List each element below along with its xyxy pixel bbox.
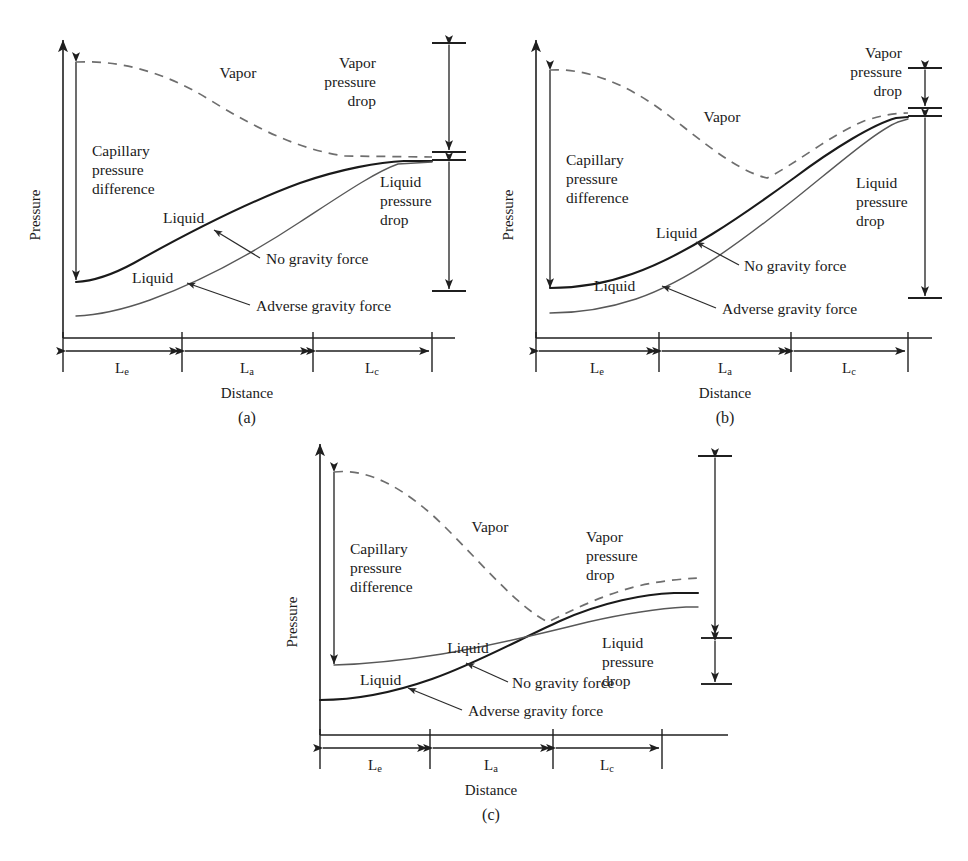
liquid-drop-label-line3-a: drop bbox=[380, 211, 409, 228]
liquid-label-upper-a: Liquid bbox=[163, 209, 205, 226]
vapor-drop-label-line1-c: Vapor bbox=[586, 528, 624, 545]
x-axis-label-b: Distance bbox=[699, 385, 752, 401]
liquid-label-upper-c: Liquid bbox=[447, 639, 489, 656]
segment-label-lc-c: Lc bbox=[600, 757, 614, 774]
vapor-curve-label-b: Vapor bbox=[703, 108, 741, 125]
vapor-drop-label-line1-b: Vapor bbox=[865, 44, 903, 61]
y-axis-label-c: Pressure bbox=[284, 596, 300, 647]
segment-label-la-c: La bbox=[484, 757, 498, 774]
vapor-curve-label-a: Vapor bbox=[219, 64, 257, 81]
liquid-drop-label-line2-a: pressure bbox=[380, 192, 432, 209]
capillary-label-line1-a: Capillary bbox=[92, 142, 150, 159]
segment-label-le-a: Le bbox=[115, 360, 129, 377]
segment-label-lc-a: Lc bbox=[365, 360, 379, 377]
no-gravity-annotation-b: No gravity force bbox=[744, 257, 847, 274]
vapor-drop-label-line2-a: pressure bbox=[324, 73, 376, 90]
adverse-gravity-leader-a bbox=[187, 283, 250, 305]
panel-caption-b: (b) bbox=[716, 409, 735, 427]
capillary-label-line2-a: pressure bbox=[92, 161, 144, 178]
no-gravity-leader-c bbox=[466, 663, 508, 682]
liquid-drop-label-line1-b: Liquid bbox=[856, 174, 898, 191]
liquid-label-lower-b: Liquid bbox=[594, 277, 636, 294]
no-gravity-leader-a bbox=[214, 230, 260, 258]
liquid-drop-label-line1-c: Liquid bbox=[602, 634, 644, 651]
panel-c: Pressure Capillary pressure difference V… bbox=[250, 432, 740, 861]
panel-caption-c: (c) bbox=[482, 806, 500, 824]
capillary-label-line3-c: difference bbox=[350, 578, 413, 595]
panel-b: Pressure Capillary pressure difference V… bbox=[484, 0, 968, 430]
liquid-drop-label-line3-b: drop bbox=[856, 212, 885, 229]
panel-a: Pressure Capillary pressure difference V… bbox=[0, 0, 480, 430]
liquid-label-upper-b: Liquid bbox=[656, 224, 698, 241]
adverse-gravity-leader-c bbox=[408, 688, 462, 710]
no-gravity-annotation-c: No gravity force bbox=[512, 674, 615, 691]
vapor-drop-label-line2-c: pressure bbox=[586, 547, 638, 564]
liquid-drop-label-line2-c: pressure bbox=[602, 653, 654, 670]
liquid-drop-label-line3-c: drop bbox=[602, 672, 631, 689]
adverse-gravity-leader-b bbox=[662, 286, 716, 308]
capillary-label-line1-b: Capillary bbox=[566, 151, 624, 168]
no-gravity-annotation-a: No gravity force bbox=[266, 250, 369, 267]
vapor-drop-label-line1-a: Vapor bbox=[339, 54, 377, 71]
x-axis-label-c: Distance bbox=[465, 782, 518, 798]
capillary-label-line3-b: difference bbox=[566, 189, 629, 206]
segment-label-la-b: La bbox=[718, 360, 732, 377]
liquid-label-lower-c: Liquid bbox=[360, 671, 402, 688]
capillary-label-line1-c: Capillary bbox=[350, 540, 408, 557]
adverse-gravity-annotation-c: Adverse gravity force bbox=[468, 702, 603, 719]
x-axis-label-a: Distance bbox=[221, 385, 274, 401]
liquid-drop-label-line2-b: pressure bbox=[856, 193, 908, 210]
capillary-label-line2-b: pressure bbox=[566, 170, 618, 187]
vapor-drop-label-line3-b: drop bbox=[874, 82, 903, 99]
capillary-label-line2-c: pressure bbox=[350, 559, 402, 576]
capillary-label-line3-a: difference bbox=[92, 180, 155, 197]
adverse-gravity-annotation-a: Adverse gravity force bbox=[256, 297, 391, 314]
segment-label-lc-b: Lc bbox=[842, 360, 856, 377]
segment-label-le-c: Le bbox=[368, 757, 382, 774]
vapor-curve-label-c: Vapor bbox=[471, 518, 509, 535]
vapor-drop-label-line3-c: drop bbox=[586, 566, 615, 583]
liquid-label-lower-a: Liquid bbox=[132, 269, 174, 286]
vapor-drop-label-line3-a: drop bbox=[348, 92, 377, 109]
vapor-drop-label-line2-b: pressure bbox=[850, 63, 902, 80]
segment-label-le-b: Le bbox=[590, 360, 604, 377]
segment-label-la-a: La bbox=[240, 360, 254, 377]
liquid-drop-label-line1-a: Liquid bbox=[380, 173, 422, 190]
y-axis-label-b: Pressure bbox=[500, 189, 516, 240]
figure-root: Pressure Capillary pressure difference V… bbox=[0, 0, 968, 861]
panel-caption-a: (a) bbox=[238, 409, 256, 427]
adverse-gravity-annotation-b: Adverse gravity force bbox=[722, 300, 857, 317]
y-axis-label-a: Pressure bbox=[27, 189, 43, 240]
